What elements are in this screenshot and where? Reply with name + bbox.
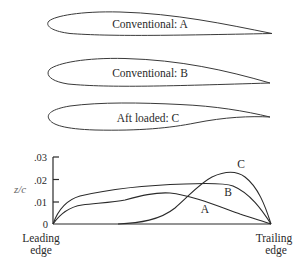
- curve-label-b: B: [224, 186, 232, 198]
- camber-curve-b: [53, 183, 271, 224]
- airfoil-c-label: Aft loaded: C: [117, 112, 180, 124]
- curve-label-c: C: [237, 158, 245, 170]
- y-tick-label-03: .03: [34, 152, 47, 163]
- airfoil-c: Aft loaded: C: [48, 103, 270, 130]
- curve-label-a: A: [201, 203, 210, 215]
- y-tick-label-01: .01: [34, 197, 47, 208]
- leading-edge-label-line2: edge: [30, 244, 52, 257]
- airfoil-b-label: Conventional: B: [112, 67, 188, 79]
- trailing-edge-label-line2: edge: [265, 244, 287, 257]
- airfoil-b: Conventional: B: [48, 58, 270, 86]
- camber-curve-a: [53, 193, 271, 224]
- camber-plot: .03 .02 .01 0 z/c C B A Leading edge Tra…: [13, 152, 293, 257]
- y-tick-label-02: .02: [34, 175, 47, 186]
- y-axis-label: z/c: [13, 183, 26, 195]
- y-tick-label-0: 0: [43, 219, 48, 230]
- airfoil-a-label: Conventional: A: [112, 18, 188, 30]
- airfoil-camber-diagram: Conventional: A Conventional: B Aft load…: [0, 0, 302, 273]
- airfoil-a: Conventional: A: [48, 12, 272, 36]
